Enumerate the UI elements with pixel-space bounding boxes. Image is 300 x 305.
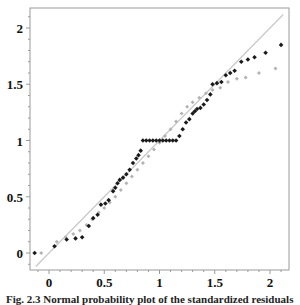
- data-point: [117, 178, 122, 183]
- data-point: [187, 117, 192, 122]
- x-tick-label: 0.5: [96, 275, 113, 290]
- data-point: [141, 161, 145, 165]
- data-point: [185, 105, 189, 109]
- data-point: [119, 188, 123, 192]
- data-point: [102, 206, 106, 210]
- data-point: [201, 102, 206, 107]
- x-tick-label: 2: [267, 275, 274, 290]
- data-point: [219, 80, 224, 85]
- data-point: [130, 175, 134, 179]
- data-point: [226, 80, 230, 84]
- x-tick-label: 0: [46, 275, 53, 290]
- data-point: [135, 168, 139, 172]
- data-point: [246, 57, 251, 62]
- qq-plot: 00.511.52 00.511.52: [0, 0, 300, 290]
- data-point: [136, 153, 141, 158]
- data-point: [52, 244, 57, 249]
- data-point: [208, 92, 213, 97]
- data-point: [138, 148, 143, 153]
- y-tick-label: 0.5: [7, 190, 24, 205]
- data-point: [174, 138, 179, 143]
- series-dark: [32, 43, 283, 256]
- data-point: [257, 71, 261, 75]
- data-point: [146, 154, 150, 158]
- data-point: [80, 235, 85, 240]
- data-point: [73, 236, 78, 241]
- y-tick-label: 1: [17, 134, 24, 149]
- data-point: [180, 127, 185, 132]
- data-point: [113, 185, 118, 190]
- data-point: [263, 50, 268, 55]
- data-point: [78, 229, 82, 233]
- data-point: [228, 71, 233, 76]
- data-point: [32, 251, 37, 256]
- data-point: [218, 86, 222, 90]
- data-point: [163, 134, 167, 138]
- data-point: [191, 100, 195, 104]
- data-point: [210, 82, 215, 87]
- data-point: [180, 112, 184, 116]
- y-tick-label: 2: [17, 21, 24, 36]
- data-point: [124, 181, 128, 185]
- data-point: [134, 156, 139, 161]
- data-point: [239, 59, 244, 64]
- data-point: [279, 43, 284, 48]
- y-axis: 00.511.52: [7, 17, 30, 265]
- data-series: [32, 43, 283, 256]
- data-point: [103, 201, 108, 206]
- data-point: [215, 81, 220, 86]
- y-tick-label: 0: [17, 246, 24, 261]
- data-point: [244, 76, 248, 80]
- data-point: [274, 67, 278, 71]
- data-point: [235, 77, 239, 81]
- data-point: [184, 120, 189, 125]
- data-point: [252, 55, 257, 60]
- data-point: [232, 68, 237, 73]
- data-point: [113, 195, 117, 199]
- data-point: [127, 167, 132, 172]
- data-point: [131, 161, 136, 166]
- data-point: [177, 134, 182, 139]
- data-point: [99, 202, 104, 207]
- x-tick-label: 1: [156, 275, 163, 290]
- data-point: [71, 232, 75, 236]
- x-axis: 00.511.52: [38, 270, 281, 290]
- x-tick-label: 1.5: [207, 275, 224, 290]
- data-point: [39, 251, 43, 255]
- y-tick-label: 1.5: [7, 77, 24, 92]
- data-point: [224, 73, 229, 78]
- data-point: [205, 98, 210, 103]
- figure-caption: Fig. 2.3 Normal probability plot of the …: [6, 293, 293, 305]
